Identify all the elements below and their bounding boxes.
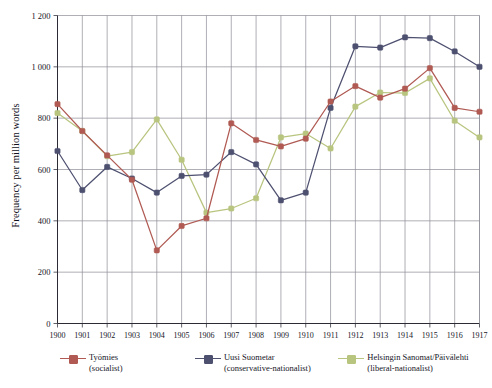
data-point xyxy=(278,135,283,140)
data-point xyxy=(328,105,333,110)
data-point xyxy=(278,144,283,149)
x-axis-tick-label: 1907 xyxy=(223,331,239,340)
data-point xyxy=(328,146,333,151)
x-axis-tick-label: 1913 xyxy=(372,331,388,340)
data-point xyxy=(477,109,482,114)
x-axis-tick-label: 1916 xyxy=(447,331,463,340)
data-point xyxy=(204,216,209,221)
y-axis-tick-label: 200 xyxy=(38,267,51,277)
x-axis-tick-label: 1911 xyxy=(323,331,339,340)
x-axis-tick-label: 1905 xyxy=(174,331,190,340)
data-point xyxy=(179,157,184,162)
data-point xyxy=(427,66,432,71)
data-point xyxy=(353,44,358,49)
data-point xyxy=(80,128,85,133)
legend-series-subtitle: (conservative-nationalist) xyxy=(224,363,311,374)
legend-series-subtitle: (socialist) xyxy=(89,363,123,374)
x-axis-tick-label: 1903 xyxy=(124,331,140,340)
data-point xyxy=(378,95,383,100)
line-chart: Frequency per million words 020040060080… xyxy=(0,0,492,388)
x-axis-tick-label: 1904 xyxy=(149,331,165,340)
legend-series-name: Uusi Suometar xyxy=(224,352,275,362)
data-point xyxy=(452,105,457,110)
x-axis-tick-label: 1914 xyxy=(397,331,413,340)
x-axis-tick-label: 1915 xyxy=(422,331,438,340)
data-point xyxy=(278,198,283,203)
legend-dot xyxy=(347,355,356,364)
data-point xyxy=(452,118,457,123)
data-point xyxy=(402,35,407,40)
data-point xyxy=(353,83,358,88)
series-0 xyxy=(55,66,482,253)
legend-marker-icon xyxy=(195,353,221,364)
data-point xyxy=(477,64,482,69)
x-axis-tick-label: 1909 xyxy=(273,331,289,340)
legend-dot xyxy=(69,355,78,364)
data-point xyxy=(129,177,134,182)
data-point xyxy=(105,164,110,169)
legend-marker-icon xyxy=(60,353,86,364)
data-point xyxy=(179,223,184,228)
data-point xyxy=(353,104,358,109)
y-axis-tick-label: 400 xyxy=(38,216,51,226)
x-axis-tick-label: 1902 xyxy=(99,331,115,340)
data-point xyxy=(229,149,234,154)
legend-item-uusi-suometar[interactable]: Uusi Suometar (conservative-nationalist) xyxy=(195,352,338,373)
chart-legend: Työmies (socialist) Uusi Suometar (conse… xyxy=(60,352,492,386)
x-axis-tick-label: 1912 xyxy=(347,331,363,340)
y-axis-tick-label: 1 200 xyxy=(31,11,50,21)
legend-label-tyomies: Työmies (socialist) xyxy=(86,352,123,373)
data-point xyxy=(80,187,85,192)
x-axis-tick-label: 1917 xyxy=(472,331,488,340)
data-point xyxy=(229,206,234,211)
legend-series-name: Työmies xyxy=(89,352,118,362)
data-point xyxy=(452,49,457,54)
legend-series-subtitle: (liberal-nationalist) xyxy=(367,363,468,374)
data-point xyxy=(378,90,383,95)
data-point xyxy=(105,153,110,158)
y-axis-tick-label: 1 000 xyxy=(31,62,50,72)
data-point xyxy=(303,136,308,141)
legend-item-tyomies[interactable]: Työmies (socialist) xyxy=(60,352,195,373)
data-point xyxy=(378,45,383,50)
series-1 xyxy=(55,35,482,203)
data-point xyxy=(204,172,209,177)
legend-label-uusi-suometar: Uusi Suometar (conservative-nationalist) xyxy=(221,352,311,373)
data-point xyxy=(253,162,258,167)
x-axis-tick-label: 1900 xyxy=(50,331,66,340)
data-point xyxy=(129,149,134,154)
legend-marker-icon xyxy=(338,353,364,364)
data-point xyxy=(154,117,159,122)
data-point xyxy=(179,173,184,178)
data-point xyxy=(253,196,258,201)
series-line xyxy=(58,37,480,200)
legend-dot xyxy=(204,355,213,364)
legend-item-helsingin-sanomat[interactable]: Helsingin Sanomat/Päivälehti (liberal-na… xyxy=(338,352,492,373)
legend-label-helsingin-sanomat: Helsingin Sanomat/Päivälehti (liberal-na… xyxy=(364,352,468,373)
data-point xyxy=(402,86,407,91)
x-axis-tick-label: 1906 xyxy=(198,331,214,340)
x-axis-tick-label: 1901 xyxy=(74,331,90,340)
data-point xyxy=(154,190,159,195)
data-point xyxy=(229,121,234,126)
series-line xyxy=(58,68,480,250)
series-line xyxy=(58,78,480,212)
data-point xyxy=(477,135,482,140)
plot-area: 02004006008001 0001 20019001901190219031… xyxy=(0,0,492,352)
data-point xyxy=(427,76,432,81)
data-point xyxy=(303,190,308,195)
data-point xyxy=(55,101,60,106)
data-point xyxy=(55,148,60,153)
series-2 xyxy=(55,76,482,215)
data-point xyxy=(154,248,159,253)
y-axis-tick-label: 0 xyxy=(46,319,50,329)
data-point xyxy=(253,137,258,142)
legend-series-name: Helsingin Sanomat/Päivälehti xyxy=(367,352,468,362)
x-axis-tick-label: 1908 xyxy=(248,331,264,340)
y-axis-tick-label: 800 xyxy=(38,113,51,123)
data-point xyxy=(427,35,432,40)
x-axis-tick-label: 1910 xyxy=(298,331,314,340)
y-axis-tick-label: 600 xyxy=(38,165,51,175)
data-point xyxy=(55,110,60,115)
data-point xyxy=(328,99,333,104)
